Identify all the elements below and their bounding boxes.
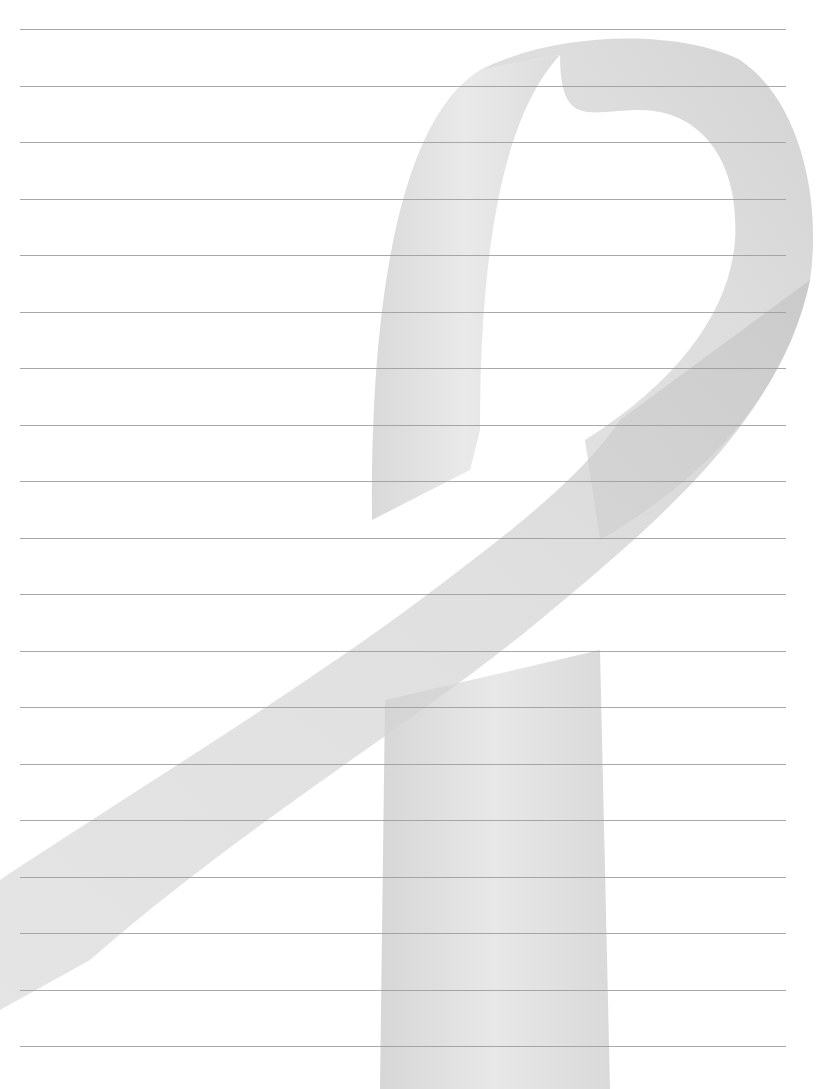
ruled-line xyxy=(20,877,786,878)
ruled-line xyxy=(20,142,786,143)
ruled-line xyxy=(20,538,786,539)
ruled-line xyxy=(20,425,786,426)
ruled-line xyxy=(20,651,786,652)
ruled-line xyxy=(20,594,786,595)
ruled-line xyxy=(20,990,786,991)
ruled-lines xyxy=(0,0,822,1089)
ruled-line xyxy=(20,312,786,313)
ruled-line xyxy=(20,199,786,200)
ruled-line xyxy=(20,29,786,30)
ruled-line xyxy=(20,764,786,765)
ruled-line xyxy=(20,368,786,369)
ruled-line xyxy=(20,820,786,821)
ruled-line xyxy=(20,86,786,87)
ruled-line xyxy=(20,255,786,256)
ruled-line xyxy=(20,707,786,708)
ruled-line xyxy=(20,481,786,482)
ruled-line xyxy=(20,933,786,934)
ruled-line xyxy=(20,1046,786,1047)
